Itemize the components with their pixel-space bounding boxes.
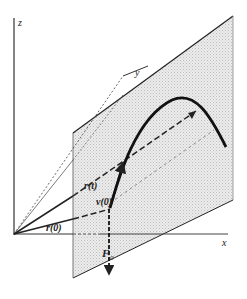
r-t-label: r(t) xyxy=(84,180,97,192)
f-0-label: F xyxy=(101,247,110,259)
f-0-subscript: 0 xyxy=(110,254,114,262)
v-0-label: v(0) xyxy=(96,196,112,208)
r-t-vector-line xyxy=(14,196,73,234)
trajectory-diagram: z x y r(t) v(0) r(0) F 0 xyxy=(0,0,247,299)
z-axis-label: z xyxy=(17,17,22,28)
y-axis-label: y xyxy=(134,67,140,78)
x-axis-label: x xyxy=(221,237,227,248)
r-0-label: r(0) xyxy=(46,222,62,234)
guide-line xyxy=(14,160,73,234)
r-0-vector-line xyxy=(14,219,73,234)
